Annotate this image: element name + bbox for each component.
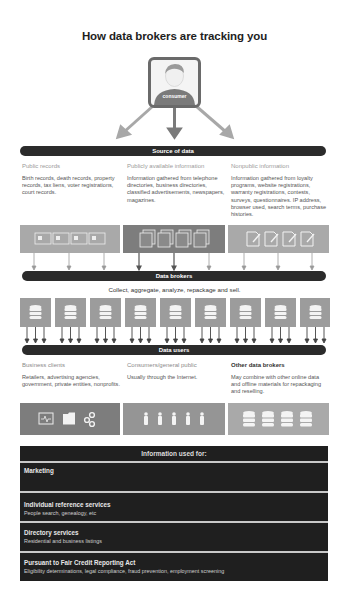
folder-icon — [63, 413, 75, 425]
stacked-documents-icon — [123, 225, 225, 253]
source-nonpublic: Nonpublic information Information gather… — [231, 163, 329, 218]
information-used-for-table: Information used for: Marketing Individu… — [20, 446, 328, 581]
consumers-panel — [123, 403, 225, 435]
table-row: Individual reference services People sea… — [20, 491, 328, 521]
column-description: Information gathered from telephone dire… — [127, 175, 225, 204]
people-icons — [123, 403, 225, 435]
table-row: Pursuant to Fair Credit Reporting Act El… — [20, 551, 328, 581]
user-business-clients: Business clients Retailers, advertising … — [22, 362, 120, 388]
row-subtitle: Eligibility determinations, legal compli… — [24, 568, 324, 574]
row-title: Directory services — [24, 529, 324, 536]
brokers-caption: Collect, aggregate, analyze, repackage a… — [0, 286, 349, 293]
other-brokers-panel — [228, 403, 329, 435]
user-other-brokers: Other data brokers May combine with othe… — [231, 362, 329, 396]
database-icon-grid — [20, 298, 330, 344]
business-clients-panel — [20, 403, 120, 435]
form-pencil-icon — [228, 225, 329, 253]
source-arrows — [0, 253, 349, 273]
publicly-available-panel — [123, 225, 225, 253]
table-row: Directory services Residential and busin… — [20, 521, 328, 551]
user-consumers: Consumers/general public Usually through… — [127, 362, 225, 381]
monitor-pulse-icon — [39, 413, 53, 424]
row-title: Marketing — [24, 467, 324, 474]
row-subtitle: People search, genealogy, etc — [24, 510, 324, 516]
column-header: Nonpublic information — [231, 163, 329, 169]
column-header: Other data brokers — [231, 362, 329, 368]
source-publicly-available: Publicly available information Informati… — [127, 163, 225, 204]
column-header: Business clients — [22, 362, 120, 368]
data-brokers-bar: Data brokers — [22, 271, 326, 281]
table-header: Information used for: — [20, 446, 328, 461]
column-header: Publicly available information — [127, 163, 225, 169]
database-icons — [228, 403, 329, 435]
row-title: Individual reference services — [24, 501, 324, 508]
data-users-bar: Data users — [22, 345, 326, 355]
consumer-avatar: consumer — [148, 57, 201, 108]
row-title: Pursuant to Fair Credit Reporting Act — [24, 559, 324, 566]
consumer-label: consumer — [151, 93, 198, 99]
gears-icon — [85, 413, 95, 427]
source-of-data-bar: Source of data — [20, 146, 326, 156]
nonpublic-panel — [228, 225, 329, 253]
column-description: Retailers, advertising agencies, governm… — [22, 374, 120, 388]
broker-grid — [20, 298, 330, 344]
table-row: Marketing — [20, 461, 328, 491]
column-description: May combine with other online data and o… — [231, 374, 329, 396]
column-description: Birth records, death records, property r… — [22, 175, 120, 197]
business-icons — [20, 403, 120, 435]
column-header: Consumers/general public — [127, 362, 225, 368]
column-description: Information gathered from loyalty progra… — [231, 175, 329, 218]
column-description: Usually through the Internet. — [127, 374, 225, 381]
public-records-panel — [20, 225, 120, 253]
column-header: Public records — [22, 163, 120, 169]
id-card-icon — [20, 225, 120, 253]
source-public-records: Public records Birth records, death reco… — [22, 163, 120, 197]
row-subtitle: Residential and business listings — [24, 538, 324, 544]
